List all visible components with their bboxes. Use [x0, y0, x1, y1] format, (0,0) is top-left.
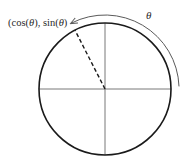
dashed-radius: [75, 30, 105, 89]
point-label: (cos(θ), sin(θ): [8, 17, 68, 29]
theta-label: θ: [146, 9, 152, 21]
unit-circle-diagram: (cos(θ), sin(θ) θ: [0, 0, 188, 167]
